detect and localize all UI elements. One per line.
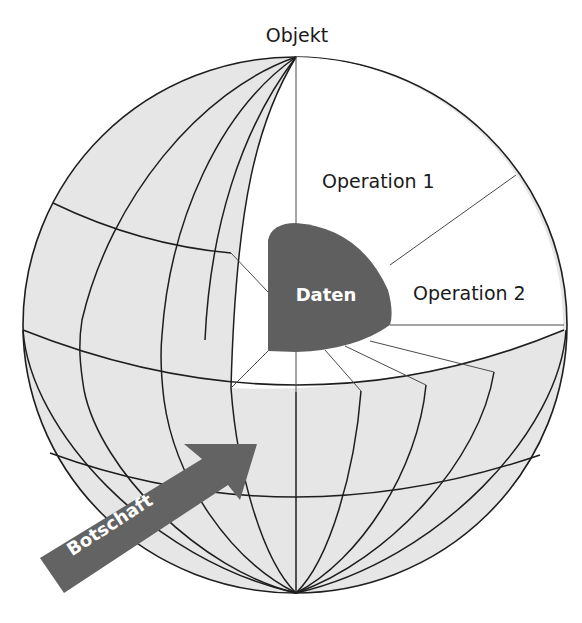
operation-2-label: Operation 2 <box>413 282 526 304</box>
object-label: Objekt <box>266 24 328 46</box>
object-sphere-diagram: Objekt Operation 1 Operation 2 Daten Bot… <box>0 0 582 623</box>
data-label: Daten <box>296 284 357 305</box>
operation-1-label: Operation 1 <box>322 170 435 192</box>
